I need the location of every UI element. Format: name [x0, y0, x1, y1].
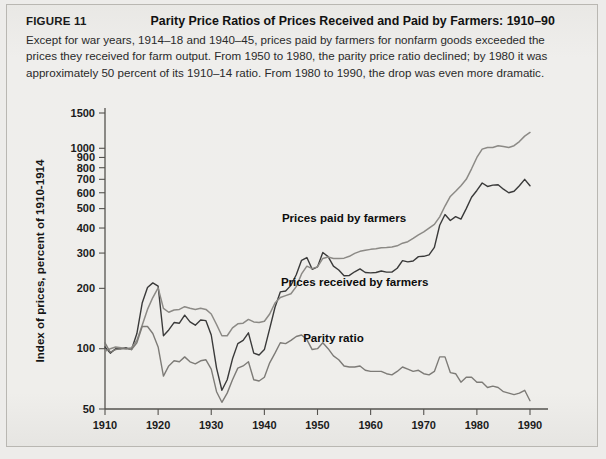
x-axis-tick-labels: 191019201930194019501960197019801990 — [93, 419, 542, 431]
x-tick-label: 1910 — [93, 419, 117, 431]
y-tick-label: 500 — [77, 202, 95, 214]
chart-plot-area: 5010020030040050060070080090010001500 19… — [0, 96, 606, 441]
series-annotation-label: Prices paid by farmers — [282, 211, 406, 224]
chart-series-lines — [105, 132, 530, 402]
y-tick-label: 400 — [77, 222, 95, 234]
y-tick-label: 700 — [77, 173, 95, 185]
figure-description: Except for war years, 1914–18 and 1940–4… — [26, 32, 574, 81]
figure-panel: FIGURE 11 Parity Price Ratios of Prices … — [0, 0, 606, 459]
chart-axes — [99, 108, 548, 415]
series-annotation-label: Parity ratio — [303, 331, 364, 344]
x-tick-label: 1940 — [252, 419, 276, 431]
y-tick-label: 1500 — [71, 107, 95, 119]
x-tick-label: 1970 — [412, 419, 436, 431]
x-tick-label: 1980 — [465, 419, 489, 431]
y-tick-label: 800 — [77, 162, 95, 174]
y-tick-label: 300 — [77, 247, 95, 259]
y-tick-label: 50 — [83, 403, 95, 415]
figure-number: FIGURE 11 — [26, 15, 87, 27]
figure-caption-block: FIGURE 11 Parity Price Ratios of Prices … — [26, 14, 574, 81]
figure-title: Parity Price Ratios of Prices Received a… — [151, 14, 555, 28]
y-axis-title: Index of prices, percent of 1910-1914 — [33, 159, 46, 363]
y-tick-label: 100 — [77, 342, 95, 354]
x-tick-label: 1960 — [358, 419, 382, 431]
series-annotation-label: Prices received by farmers — [281, 275, 429, 288]
y-axis-tick-labels: 5010020030040050060070080090010001500 — [71, 107, 95, 415]
x-tick-label: 1950 — [305, 419, 329, 431]
series-line-prices-paid-by-farmers — [105, 132, 530, 351]
y-tick-label: 600 — [77, 187, 95, 199]
y-tick-label: 200 — [77, 282, 95, 294]
y-axis-title-text: Index of prices, percent of 1910-1914 — [33, 159, 46, 363]
parity-price-line-chart: 5010020030040050060070080090010001500 19… — [0, 96, 606, 441]
x-tick-label: 1920 — [146, 419, 170, 431]
y-tick-label: 1000 — [71, 142, 95, 154]
chart-series-annotations: Prices paid by farmersPrices received by… — [281, 211, 429, 344]
figure-caption-header: FIGURE 11 Parity Price Ratios of Prices … — [26, 14, 574, 28]
x-tick-label: 1990 — [518, 419, 542, 431]
x-tick-label: 1930 — [199, 419, 223, 431]
